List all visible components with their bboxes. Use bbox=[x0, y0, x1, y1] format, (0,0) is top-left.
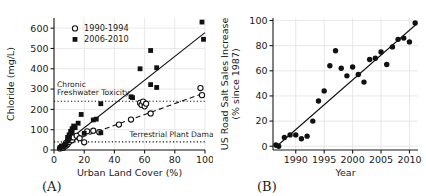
data-point bbox=[378, 49, 383, 54]
data-point bbox=[327, 63, 332, 68]
data-point bbox=[82, 140, 87, 145]
data-point bbox=[299, 136, 304, 141]
panel-label: (A) bbox=[42, 179, 62, 194]
data-point bbox=[310, 118, 315, 123]
data-point bbox=[339, 66, 344, 71]
x-tick-label: 2010 bbox=[397, 154, 421, 165]
figure-container: ChronicFreshwater ToxicityTerrestrial Pl… bbox=[0, 0, 426, 196]
data-point bbox=[138, 66, 143, 71]
data-point bbox=[77, 136, 82, 141]
data-point bbox=[361, 79, 366, 84]
data-point bbox=[98, 130, 103, 135]
data-point bbox=[116, 122, 121, 127]
x-tick-label: 1995 bbox=[312, 154, 336, 165]
panel-b-plot: 19901995200020052010020406080100YearUS R… bbox=[213, 0, 426, 196]
data-point bbox=[94, 117, 99, 122]
data-point bbox=[316, 98, 321, 103]
threshold-label: Freshwater Toxicity bbox=[57, 88, 130, 97]
y-axis-title: (% since 1987) bbox=[230, 48, 241, 119]
x-tick-label: 2000 bbox=[341, 154, 365, 165]
data-point bbox=[407, 39, 412, 44]
panel-a-plot: ChronicFreshwater ToxicityTerrestrial Pl… bbox=[0, 0, 213, 196]
data-point bbox=[287, 132, 292, 137]
x-tick-label: 0 bbox=[51, 154, 57, 165]
y-tick-label: 200 bbox=[30, 104, 48, 115]
y-axis-title: US Road Salt Sales Increase bbox=[219, 18, 230, 151]
data-point bbox=[333, 48, 338, 53]
y-tick-label: 400 bbox=[30, 63, 48, 74]
y-tick-label: 600 bbox=[30, 23, 48, 34]
y-tick-label: 0 bbox=[42, 144, 48, 155]
data-point bbox=[154, 65, 159, 70]
data-point bbox=[201, 37, 206, 42]
data-point bbox=[367, 57, 372, 62]
x-tick-label: 2005 bbox=[369, 154, 393, 165]
y-tick-label: 60 bbox=[255, 65, 267, 76]
x-axis-title: Urban Land Cover (%) bbox=[77, 167, 182, 178]
legend-label: 1990-1994 bbox=[84, 23, 129, 33]
y-tick-label: 0 bbox=[261, 141, 267, 152]
data-point bbox=[199, 93, 204, 98]
data-point bbox=[154, 85, 159, 90]
data-point bbox=[276, 144, 281, 149]
data-point bbox=[384, 62, 389, 67]
data-point bbox=[373, 56, 378, 61]
data-point bbox=[144, 101, 149, 106]
x-axis-title: Year bbox=[334, 167, 355, 178]
data-point bbox=[304, 133, 309, 138]
data-point bbox=[321, 88, 326, 93]
panel-label: (B) bbox=[257, 179, 277, 194]
x-tick-label: 80 bbox=[169, 154, 181, 165]
y-tick-label: 100 bbox=[30, 124, 48, 135]
threshold-label: Terrestrial Plant Damage bbox=[129, 130, 214, 139]
y-axis-title: Chloride (mg/L) bbox=[5, 47, 16, 121]
data-point bbox=[128, 117, 133, 122]
data-point bbox=[401, 35, 406, 40]
data-point bbox=[130, 95, 135, 100]
data-point bbox=[67, 136, 72, 141]
data-point bbox=[350, 64, 355, 69]
data-point bbox=[356, 72, 361, 77]
data-point bbox=[73, 125, 78, 130]
data-point bbox=[200, 20, 205, 25]
y-tick-label: 80 bbox=[255, 40, 267, 51]
data-point bbox=[395, 37, 400, 42]
y-tick-label: 300 bbox=[30, 83, 48, 94]
data-point bbox=[390, 44, 395, 49]
x-tick-label: 40 bbox=[108, 154, 120, 165]
data-point bbox=[344, 73, 349, 78]
trend-line-0 bbox=[275, 24, 416, 147]
data-point bbox=[148, 111, 153, 116]
data-point bbox=[293, 132, 298, 137]
y-tick-label: 20 bbox=[255, 115, 267, 126]
data-point bbox=[148, 82, 153, 87]
data-point bbox=[82, 131, 87, 136]
data-point bbox=[282, 135, 287, 140]
y-tick-label: 40 bbox=[255, 90, 267, 101]
x-tick-label: 20 bbox=[78, 154, 90, 165]
x-tick-label: 60 bbox=[139, 154, 151, 165]
data-point bbox=[79, 112, 84, 117]
data-point bbox=[91, 128, 96, 133]
data-point bbox=[412, 20, 417, 25]
legend-label: 2006-2010 bbox=[84, 34, 129, 44]
x-tick-label: 1990 bbox=[284, 154, 308, 165]
data-point bbox=[76, 121, 81, 126]
data-point bbox=[148, 48, 153, 53]
data-point bbox=[98, 101, 103, 106]
panel-a-chloride-vs-urban-land-cover: ChronicFreshwater ToxicityTerrestrial Pl… bbox=[0, 0, 213, 196]
y-tick-label: 100 bbox=[249, 15, 267, 26]
data-point bbox=[198, 85, 203, 90]
panel-b-road-salt-sales: 19901995200020052010020406080100YearUS R… bbox=[213, 0, 426, 196]
y-tick-label: 500 bbox=[30, 43, 48, 54]
legend-marker bbox=[72, 26, 77, 31]
x-tick-label: 100 bbox=[196, 154, 213, 165]
legend-marker bbox=[73, 37, 78, 42]
